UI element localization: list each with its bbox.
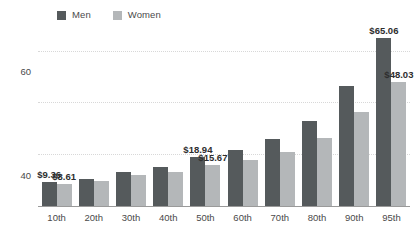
x-axis-tick-label: 70th <box>271 213 290 223</box>
bar-chart: Men Women 0204060 10th20th30th40th50th60… <box>0 0 418 240</box>
legend-item-women: Women <box>113 10 161 20</box>
plot-area: 0204060 10th20th30th40th50th60th70th80th… <box>38 30 410 206</box>
x-axis-tick-label: 10th <box>47 213 66 223</box>
bar-men-50th[interactable] <box>190 157 205 206</box>
bar-men-20th[interactable] <box>79 179 94 206</box>
bar-women-80th[interactable] <box>317 138 332 206</box>
bar-group: 30th <box>112 30 149 206</box>
axis-baseline: 0 <box>38 206 410 207</box>
x-axis-tick-label: 80th <box>308 213 327 223</box>
bar-women-90th[interactable] <box>354 112 369 206</box>
bar-women-30th[interactable] <box>131 175 146 206</box>
bar-men-90th[interactable] <box>339 86 354 206</box>
value-label-men-95th: $65.06 <box>369 26 398 36</box>
bar-men-70th[interactable] <box>265 139 280 206</box>
bar-women-60th[interactable] <box>243 160 258 206</box>
value-label-women-10th: $8.61 <box>52 172 76 182</box>
value-label-women-50th: $15.67 <box>198 153 227 163</box>
bar-group: 80th <box>298 30 335 206</box>
x-axis-tick-label: 40th <box>159 213 178 223</box>
y-axis-tick-label: 60 <box>20 68 31 78</box>
legend-swatch-men <box>57 11 66 20</box>
bar-men-80th[interactable] <box>302 121 317 206</box>
bar-group: 60th <box>224 30 261 206</box>
bar-group: 20th <box>75 30 112 206</box>
bar-group: 90th <box>336 30 373 206</box>
bar-women-10th[interactable] <box>57 184 72 206</box>
bar-women-50th[interactable] <box>205 165 220 206</box>
bar-group: 95th <box>373 30 410 206</box>
bar-women-20th[interactable] <box>94 181 109 206</box>
bar-men-30th[interactable] <box>116 172 131 206</box>
bar-men-95th[interactable] <box>376 38 391 206</box>
bar-women-40th[interactable] <box>168 172 183 206</box>
x-axis-tick-label: 95th <box>382 213 401 223</box>
x-axis-tick-label: 90th <box>345 213 364 223</box>
bar-men-60th[interactable] <box>228 150 243 206</box>
legend-label-men: Men <box>72 10 91 20</box>
bar-women-70th[interactable] <box>280 152 295 206</box>
legend-label-women: Women <box>128 10 161 20</box>
legend-item-men: Men <box>57 10 91 20</box>
bar-women-95th[interactable] <box>391 82 406 206</box>
value-label-women-95th: $48.03 <box>384 70 413 80</box>
bar-group: 50th <box>187 30 224 206</box>
bar-men-10th[interactable] <box>42 182 57 206</box>
x-axis-tick-label: 30th <box>122 213 141 223</box>
bar-groups: 10th20th30th40th50th60th70th80th90th95th <box>38 30 410 206</box>
y-axis-tick-label: 40 <box>20 171 31 181</box>
bar-group: 40th <box>150 30 187 206</box>
x-axis-tick-label: 60th <box>233 213 252 223</box>
bar-group: 70th <box>261 30 298 206</box>
legend-swatch-women <box>113 11 122 20</box>
x-axis-tick-label: 20th <box>85 213 104 223</box>
bar-men-40th[interactable] <box>153 167 168 206</box>
x-axis-tick-label: 50th <box>196 213 215 223</box>
chart-legend: Men Women <box>57 8 161 22</box>
